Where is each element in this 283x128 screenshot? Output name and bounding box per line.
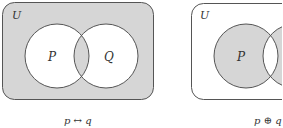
diagram-exclusive-or: U P p ⊕ q bbox=[192, 4, 283, 127]
caption: p ↔ q bbox=[64, 115, 92, 126]
set-p-label: P bbox=[47, 50, 57, 64]
caption: p ⊕ q bbox=[254, 115, 282, 126]
set-q-label: Q bbox=[104, 50, 114, 64]
venn-diagrams: U P Q p ↔ q U P p ⊕ q bbox=[0, 0, 282, 128]
diagram-biconditional: U P Q p ↔ q bbox=[3, 3, 154, 127]
universe-label: U bbox=[200, 9, 210, 22]
universe-label: U bbox=[12, 9, 22, 22]
set-p-label: P bbox=[236, 50, 246, 64]
